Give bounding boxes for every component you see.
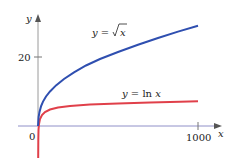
sqrt-curve (38, 26, 198, 126)
sqrt-annotation: y = x (91, 24, 127, 38)
svg-text:x: x (120, 27, 126, 38)
svg-text:y =: y = (91, 27, 109, 38)
y-axis-label: y (25, 13, 32, 24)
chart: y 20 0 1000 x y = x y = ln x (0, 0, 236, 164)
y-axis-arrow-icon (35, 14, 41, 22)
origin-label: 0 (29, 131, 35, 142)
svg-text:y = ln x: y = ln x (121, 88, 161, 99)
y-tick-label: 20 (18, 52, 31, 63)
ln-annotation: y = ln x (121, 88, 161, 99)
x-axis-label: x (218, 128, 224, 139)
ln-curve (38, 101, 198, 158)
x-tick-label: 1000 (186, 132, 211, 143)
